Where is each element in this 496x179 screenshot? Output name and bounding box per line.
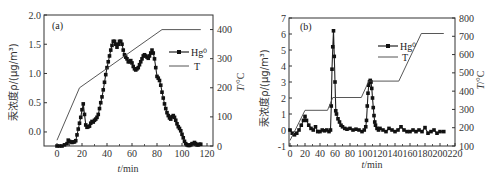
y-axis-title-a: 汞浓度ρ/(μg/m³) (7, 43, 19, 120)
legend-t-label: T (194, 61, 200, 72)
svg-text:2.0: 2.0 (29, 10, 42, 21)
svg-text:300: 300 (217, 53, 232, 64)
svg-text:0.0: 0.0 (29, 126, 42, 137)
svg-text:180: 180 (418, 148, 433, 159)
x-axis-title-a: t/min (117, 163, 138, 174)
svg-text:3: 3 (281, 77, 286, 88)
svg-text:700: 700 (459, 31, 474, 42)
svg-text:120: 120 (373, 148, 388, 159)
svg-text:100: 100 (175, 148, 190, 159)
svg-text:200: 200 (433, 148, 448, 159)
svg-text:0: 0 (281, 125, 286, 136)
svg-text:80: 80 (345, 148, 355, 159)
y-axis-right-title-a: T/°C (235, 72, 246, 91)
svg-text:140: 140 (388, 148, 403, 159)
svg-text:-1: -1 (278, 141, 286, 152)
svg-text:60: 60 (330, 148, 340, 159)
svg-text:100: 100 (459, 141, 474, 152)
svg-text:20: 20 (300, 148, 310, 159)
svg-text:6: 6 (281, 29, 286, 40)
svg-text:80: 80 (152, 148, 162, 159)
legend-hg-label: Hg⁰ (191, 47, 207, 58)
chart-panel-b: 020406080100120140160180200220-101234567… (258, 13, 486, 171)
svg-text:200: 200 (217, 82, 232, 93)
svg-text:800: 800 (459, 13, 474, 24)
panel-label-a: (a) (52, 20, 63, 32)
svg-text:400: 400 (217, 24, 232, 35)
svg-text:40: 40 (102, 148, 112, 159)
legend-t-label: T (402, 52, 408, 63)
data-series-a (55, 30, 202, 148)
svg-text:0: 0 (288, 148, 293, 159)
axis-ticks-b: 020406080100120140160180200220-101234567… (278, 13, 474, 160)
legend-hg-marker-icon (386, 44, 390, 48)
legend-a: Hg⁰ T (169, 47, 207, 72)
svg-text:160: 160 (403, 148, 418, 159)
svg-text:300: 300 (459, 104, 474, 115)
panel-label-b: (b) (300, 21, 312, 33)
y-axis-title-b: 汞浓度ρ/(μg/m³) (258, 49, 270, 126)
svg-text:60: 60 (127, 148, 137, 159)
svg-text:600: 600 (459, 49, 474, 60)
svg-text:400: 400 (459, 86, 474, 97)
svg-text:1: 1 (281, 109, 286, 120)
legend-hg-marker-icon (177, 50, 181, 54)
svg-text:0.5: 0.5 (29, 97, 42, 108)
chart-panel-a: 0204060801001200.00.51.01.52.00100200300… (7, 10, 246, 175)
svg-text:40: 40 (315, 148, 325, 159)
svg-text:1.0: 1.0 (29, 68, 42, 79)
svg-text:2: 2 (281, 93, 286, 104)
svg-text:1.5: 1.5 (29, 39, 42, 50)
svg-text:4: 4 (281, 61, 286, 72)
legend-b: Hg⁰ T (378, 41, 416, 63)
svg-text:100: 100 (358, 148, 373, 159)
x-axis-title-b: t/min (361, 159, 382, 170)
svg-text:7: 7 (281, 13, 286, 24)
data-series-b (288, 29, 445, 141)
svg-text:120: 120 (200, 148, 215, 159)
svg-text:500: 500 (459, 67, 474, 78)
svg-text:0: 0 (55, 148, 60, 159)
y-axis-right-title-b: T/°C (475, 70, 486, 89)
svg-text:100: 100 (217, 111, 232, 122)
figure: 0204060801001200.00.51.01.52.00100200300… (0, 0, 496, 179)
svg-text:200: 200 (459, 122, 474, 133)
legend-hg-label: Hg⁰ (400, 41, 416, 52)
plot-frame-a (44, 15, 213, 146)
svg-text:0: 0 (217, 141, 222, 152)
svg-text:20: 20 (77, 148, 87, 159)
svg-text:5: 5 (281, 45, 286, 56)
